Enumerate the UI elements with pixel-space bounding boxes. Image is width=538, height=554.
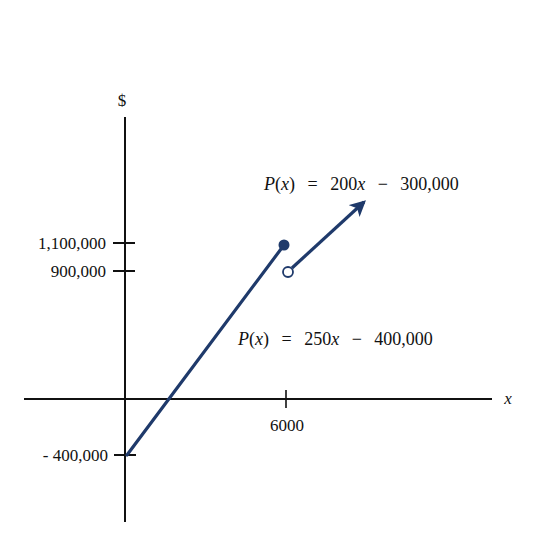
eq-lower-x: x [254,329,263,349]
eq-lower-minus: − [352,329,362,349]
x-tick-label-6000: 6000 [270,416,304,435]
equation-upper: P(x) = 200x − 300,000 [263,174,459,195]
closed-endpoint-marker [279,240,290,251]
eq-lower-p: P [237,329,249,349]
eq-upper-coef: 200 [330,174,357,194]
eq-lower-var: x [330,329,339,349]
eq-upper-var: x [356,174,365,194]
y-tick-label-900000: 900,000 [51,262,106,281]
eq-upper-x: x [280,174,289,194]
eq-upper-equals: = [308,174,318,194]
segment-upper [292,202,364,268]
segment-lower [127,245,284,455]
eq-upper-minus: − [378,174,388,194]
eq-lower-close: ) [263,329,269,350]
eq-upper-p: P [263,174,275,194]
y-tick-label-neg400000: - 400,000 [43,446,108,465]
y-axis-label: $ [118,91,127,110]
eq-upper-close: ) [289,174,295,195]
open-endpoint-marker [283,267,293,277]
eq-upper-const: 300,000 [400,174,459,194]
eq-lower-coef: 250 [304,329,331,349]
x-axis-label: x [503,389,512,408]
y-tick-label-1100000: 1,100,000 [38,234,106,253]
equation-lower: P(x) = 250x − 400,000 [237,329,433,350]
eq-lower-equals: = [282,329,292,349]
eq-lower-const: 400,000 [374,329,433,349]
piecewise-profit-chart: $ x 1,100,000 900,000 - 400,000 6000 P(x… [0,0,538,554]
